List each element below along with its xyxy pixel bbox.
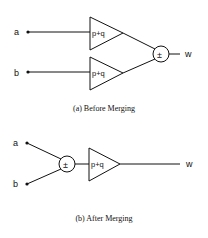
input-a-label: a xyxy=(13,138,18,148)
input-b-label: b xyxy=(14,68,19,78)
plus-minus-symbol: ± xyxy=(157,50,162,60)
wire-b xyxy=(27,169,61,184)
amplifier-a-label: p+q xyxy=(92,29,105,38)
caption-after-merging: (b) After Merging xyxy=(75,214,132,223)
caption-before-merging: (a) Before Merging xyxy=(73,104,135,113)
diagram-after-merging: a b ± p+q w (b) After Merging xyxy=(13,138,193,223)
input-b-label: b xyxy=(13,179,18,189)
diagram-before-merging: a p+q b p+q ± w (a) Before Merging xyxy=(14,17,192,113)
wire-amp-b-to-sum xyxy=(123,59,155,73)
wire-a xyxy=(27,143,61,159)
output-w-label: w xyxy=(185,159,193,169)
amplifier-b-label: p+q xyxy=(92,69,105,78)
amplifier-label: p+q xyxy=(91,160,104,169)
output-w-label: w xyxy=(184,49,192,59)
merging-diagram: a p+q b p+q ± w (a) Before Merging a b ±… xyxy=(0,0,208,238)
plus-minus-symbol: ± xyxy=(63,160,68,170)
input-a-label: a xyxy=(14,27,19,37)
wire-amp-a-to-sum xyxy=(123,33,155,49)
